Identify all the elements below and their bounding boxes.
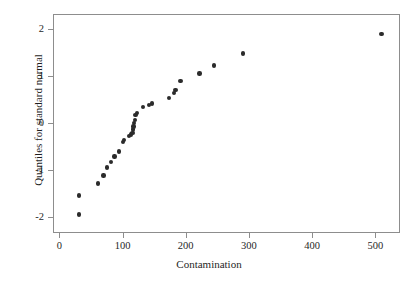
- qq-plot-figure: Contamination Quantiles for standard nor…: [0, 0, 418, 282]
- data-point: [109, 160, 113, 164]
- data-point: [105, 165, 109, 169]
- y-tick-label: -2: [0, 211, 44, 223]
- data-point: [150, 101, 154, 105]
- x-tick-mark: [249, 233, 250, 238]
- data-point: [117, 149, 121, 153]
- data-point: [167, 96, 171, 100]
- data-point: [379, 32, 383, 36]
- x-tick-mark: [312, 233, 313, 238]
- x-tick-label: 200: [166, 240, 206, 252]
- data-point: [112, 154, 116, 158]
- data-point: [77, 212, 81, 216]
- x-tick-label: 100: [103, 240, 143, 252]
- data-point: [133, 118, 137, 122]
- data-point: [197, 71, 201, 75]
- data-point: [96, 181, 100, 185]
- y-tick-mark: [48, 76, 53, 77]
- x-axis-title: Contamination: [0, 258, 418, 270]
- y-tick-label: 0: [0, 117, 44, 129]
- x-tick-label: 400: [292, 240, 332, 252]
- data-point: [101, 173, 105, 177]
- x-tick-label: 300: [229, 240, 269, 252]
- data-point: [241, 51, 245, 55]
- y-tick-mark: [48, 29, 53, 30]
- y-tick-label: 1: [0, 70, 44, 82]
- y-tick-mark: [48, 217, 53, 218]
- y-tick-mark: [48, 123, 53, 124]
- x-tick-label: 0: [39, 240, 79, 252]
- x-tick-mark: [123, 233, 124, 238]
- data-point: [173, 88, 177, 92]
- data-point: [135, 111, 139, 115]
- y-tick-label: 2: [0, 23, 44, 35]
- data-point: [77, 193, 81, 197]
- x-tick-mark: [186, 233, 187, 238]
- data-point: [212, 63, 216, 67]
- x-tick-mark: [375, 233, 376, 238]
- x-tick-label: 500: [355, 240, 395, 252]
- y-tick-mark: [48, 170, 53, 171]
- data-point: [141, 105, 145, 109]
- scatter-points-layer: [54, 15, 399, 232]
- data-point: [122, 138, 126, 142]
- plot-frame: [53, 14, 400, 233]
- data-point: [178, 79, 182, 83]
- x-tick-mark: [59, 233, 60, 238]
- y-tick-label: -1: [0, 164, 44, 176]
